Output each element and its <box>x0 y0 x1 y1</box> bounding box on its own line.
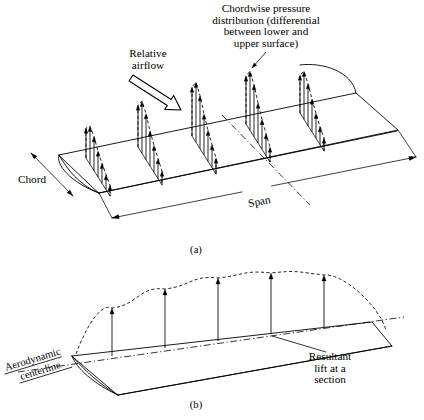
midspan-dashdot-line <box>222 115 310 205</box>
panel-a-caption: (a) <box>190 244 202 256</box>
aerodynamic-centerline <box>18 317 404 372</box>
panel-b: AerodynamiccenterlineResultantlift at as… <box>1 272 404 411</box>
pressure-arrow-head <box>144 114 148 119</box>
aerodynamic-centerline-label-group: Aerodynamiccenterline <box>1 344 71 387</box>
figure-root: Chordwise pressuredistribution (differen… <box>0 0 424 420</box>
span-label: Span <box>247 193 272 209</box>
lift-arrow-head <box>322 275 326 281</box>
wing-upper-surface <box>59 93 398 193</box>
chord-label: Chord <box>18 173 46 185</box>
resultant-lift-label-line: lift at a <box>314 362 346 374</box>
panel-a: Chordwise pressuredistribution (differen… <box>18 2 416 256</box>
lift-arrow-head <box>110 308 114 314</box>
relative-airflow-label-line: Relative <box>129 47 166 59</box>
span-extension-right <box>398 130 416 157</box>
chordwise-label-leader <box>252 52 266 68</box>
midspan-reference-line <box>222 115 310 205</box>
lift-arrow-head <box>163 289 167 295</box>
pressure-arrow-head <box>96 151 100 156</box>
relative-airflow-arrow-icon <box>129 75 181 110</box>
relative-airflow-block-arrow <box>129 75 181 110</box>
pressure-arrow-head <box>194 82 198 87</box>
panel-a-wing-planform <box>58 93 398 193</box>
span-dimension-arrowhead-left <box>112 215 119 219</box>
relative-airflow-label-line: airflow <box>132 59 165 71</box>
panel-b-caption: (b) <box>190 399 203 411</box>
lift-arrow-head <box>216 278 220 284</box>
span-dimension-line-left <box>112 192 242 218</box>
span-extension-left <box>99 193 112 218</box>
resultant-lift-label-line: section <box>314 373 346 385</box>
aerodynamic-centerline-line <box>18 317 404 372</box>
lift-arrow-head <box>269 273 273 279</box>
chordwise-pressure-label-line: between lower and <box>224 25 309 37</box>
panel-b-labels: AerodynamiccenterlineResultantlift at as… <box>1 344 352 387</box>
wing-lower-trailing-edge <box>99 131 397 193</box>
chordwise-pressure-label-line: Chordwise pressure <box>222 2 311 14</box>
wing-lift-diagram: Chordwise pressuredistribution (differen… <box>0 0 424 420</box>
resultant-lift-label-line: Resultant <box>309 350 352 362</box>
span-dimension-arrowhead-right <box>409 156 416 160</box>
chordwise-pressure-stations <box>84 71 326 196</box>
chordwise-pressure-label-line: upper surface) <box>234 37 299 50</box>
span-dimension-line-right <box>271 157 416 186</box>
